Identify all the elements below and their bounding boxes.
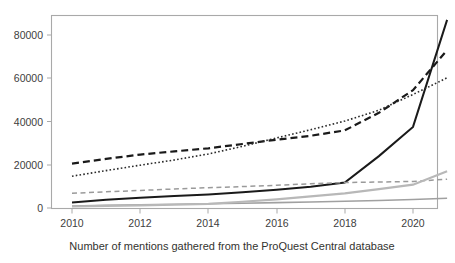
chart-caption: Number of mentions gathered from the Pro… — [69, 240, 394, 252]
x-tick-marks — [72, 209, 413, 214]
line-chart: 0 20000 40000 60000 80000 2010 2012 2014… — [0, 0, 455, 263]
y-tick-label-80000: 80000 — [14, 29, 43, 41]
x-tick-label-2012: 2012 — [128, 217, 152, 229]
y-tick-label-60000: 60000 — [14, 72, 43, 84]
series-lightgray-solid — [72, 171, 447, 206]
y-tick-label-0: 0 — [37, 202, 43, 214]
y-tick-label-20000: 20000 — [14, 159, 43, 171]
series-black-dotted — [72, 78, 447, 176]
series-black-solid — [72, 20, 447, 203]
x-tick-label-2018: 2018 — [333, 217, 357, 229]
x-tick-label-2014: 2014 — [196, 217, 220, 229]
figure-container: 0 20000 40000 60000 80000 2010 2012 2014… — [0, 0, 455, 263]
y-tick-label-40000: 40000 — [14, 116, 43, 128]
x-tick-label-2010: 2010 — [60, 217, 84, 229]
series-layer — [72, 20, 447, 207]
x-tick-label-2020: 2020 — [401, 217, 425, 229]
x-tick-label-2016: 2016 — [265, 217, 289, 229]
